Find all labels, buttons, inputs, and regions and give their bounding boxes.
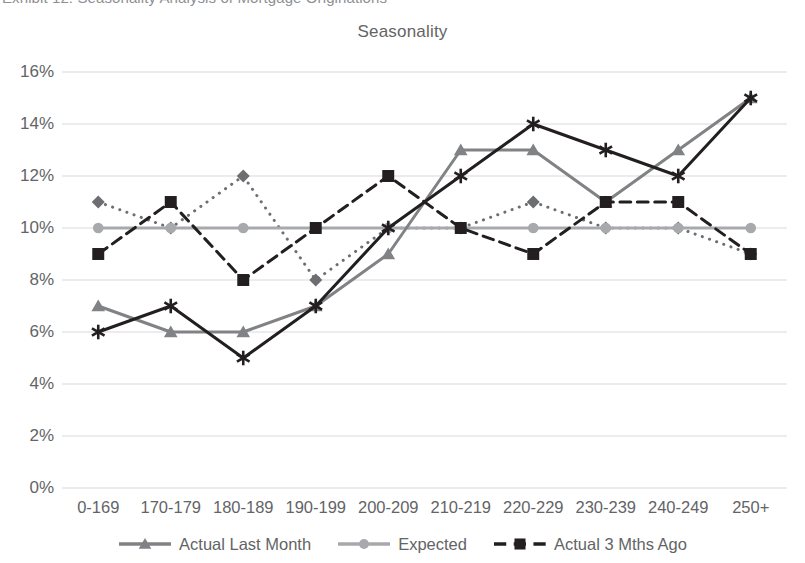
series-layer xyxy=(62,72,787,488)
y-axis-tick-label: 2% xyxy=(0,426,54,446)
legend-swatch-triangle-icon xyxy=(118,535,172,553)
y-axis-tick-label: 12% xyxy=(0,166,54,186)
x-axis-tick-label: 170-179 xyxy=(140,498,201,517)
x-axis-tick-label: 230-239 xyxy=(575,498,636,517)
x-axis-tick-label: 0-169 xyxy=(77,498,119,517)
chart-legend: Actual Last MonthExpectedActual 3 Mths A… xyxy=(0,531,805,557)
legend-item[interactable]: Expected xyxy=(337,535,467,554)
y-axis-tick-label: 10% xyxy=(0,218,54,238)
x-axis-tick-label: 190-199 xyxy=(285,498,346,517)
x-axis-tick-label: 180-189 xyxy=(213,498,274,517)
x-axis-tick-label: 240-249 xyxy=(648,498,709,517)
y-axis-tick-label: 0% xyxy=(0,478,54,498)
x-axis-tick-label: 250+ xyxy=(732,498,769,517)
legend-label: Actual Last Month xyxy=(179,535,311,554)
legend-swatch-square-icon xyxy=(493,535,547,553)
y-axis-tick-label: 14% xyxy=(0,114,54,134)
figure-caption-strip: Exhibit 12: Seasonality Analysis of Mort… xyxy=(0,0,805,11)
legend-item[interactable]: Actual 3 Mths Ago xyxy=(493,535,687,554)
x-axis-tick-label: 200-209 xyxy=(358,498,419,517)
y-axis-tick-label: 16% xyxy=(0,62,54,82)
x-axis-tick-label: 210-219 xyxy=(430,498,491,517)
y-axis-tick-label: 8% xyxy=(0,270,54,290)
y-axis-tick-label: 6% xyxy=(0,322,54,342)
legend-item[interactable]: Actual Last Month xyxy=(118,535,311,554)
y-axis: 0%2%4%6%8%10%12%14%16% xyxy=(0,72,54,488)
plot-area xyxy=(62,72,787,488)
legend-swatch-circle-icon xyxy=(337,535,391,553)
x-axis: 0-169170-179180-189190-199200-209210-219… xyxy=(62,498,787,524)
legend-label: Actual 3 Mths Ago xyxy=(554,535,687,554)
y-axis-tick-label: 4% xyxy=(0,374,54,394)
figure-caption-text: Exhibit 12: Seasonality Analysis of Mort… xyxy=(2,0,387,6)
chart-title: Seasonality xyxy=(0,22,805,42)
legend-label: Expected xyxy=(398,535,467,554)
x-axis-tick-label: 220-229 xyxy=(503,498,564,517)
